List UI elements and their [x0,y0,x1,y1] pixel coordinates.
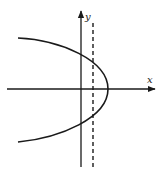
parabola-curve [18,38,108,142]
x-axis-label: x [147,74,153,85]
y-axis-label: y [84,11,91,22]
parabola-diagram: x y [0,0,163,172]
